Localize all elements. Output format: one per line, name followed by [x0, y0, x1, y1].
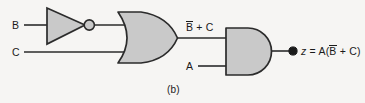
and-gate-1 [226, 28, 271, 75]
or-gate-1 [118, 12, 178, 63]
not-gate-bubble-icon [84, 20, 94, 30]
not-gate-body [47, 8, 85, 44]
output-equals: = A( [306, 45, 329, 57]
input-label-b: B [12, 20, 19, 31]
figure-caption: (b) [167, 85, 180, 95]
not-gate-1 [47, 8, 94, 44]
and-gate-body [226, 28, 271, 75]
input-label-a: A [186, 61, 193, 72]
output-node-dot [289, 47, 297, 55]
intermediate-overbar-b: B [186, 22, 193, 33]
intermediate-suffix: + C [193, 21, 213, 33]
or-gate-body [118, 12, 178, 63]
intermediate-signal-label: B + C [186, 22, 214, 33]
input-label-c: C [12, 47, 20, 58]
output-overbar-b: B [329, 46, 336, 57]
logic-circuit-figure: B C A B + C z = A(B + C) (b) [0, 0, 365, 103]
output-expression-label: z = A(B + C) [301, 46, 361, 57]
output-suffix: + C) [337, 45, 361, 57]
